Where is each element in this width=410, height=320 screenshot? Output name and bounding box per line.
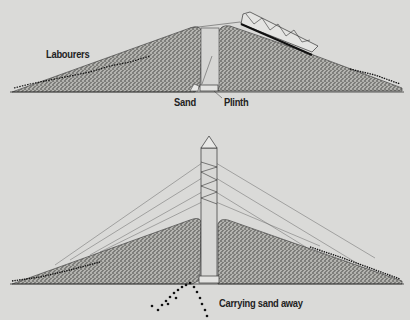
label-plinth: Plinth — [224, 96, 248, 108]
right-ramp-mound-lower — [218, 220, 402, 285]
label-carrying-sand-away: Carrying sand away — [219, 297, 303, 309]
label-labourers: Labourers — [46, 48, 89, 60]
left-ramp-mound-lower — [12, 218, 201, 284]
plinth-lower — [199, 276, 219, 283]
sand-carriers — [151, 282, 209, 318]
right-ramp-mound — [218, 26, 402, 91]
obelisk-standing — [201, 136, 217, 280]
label-sand: Sand — [174, 96, 196, 108]
plinth — [200, 85, 218, 91]
bottom-panel — [10, 136, 404, 317]
